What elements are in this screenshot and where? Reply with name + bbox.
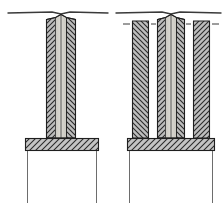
- left-column-wall-right: [67, 18, 76, 139]
- right-footing-slab: [128, 139, 215, 151]
- left-column-wall-left: [47, 18, 56, 139]
- right-outer-right-column: [194, 21, 210, 138]
- right-outer-left-column: [133, 21, 149, 138]
- left-footing-slab: [26, 139, 99, 151]
- paper-background: [0, 0, 223, 211]
- right-centre-column-wall-left: [158, 18, 166, 139]
- right-centre-column-wall-right: [177, 18, 185, 139]
- technical-figure: Sectional views of two column and base-s…: [0, 0, 223, 211]
- drawing-canvas: [0, 0, 223, 211]
